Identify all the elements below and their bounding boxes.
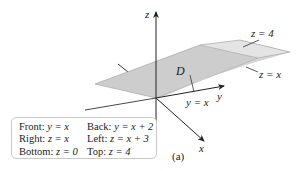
- legend-top: Top: z = 4: [87, 146, 130, 158]
- z-axis-label: z: [145, 9, 149, 20]
- boundary-legend: Front: y = x Back: y = x + 2 Right: z = …: [11, 117, 157, 159]
- legend-bottom: Bottom: z = 0: [19, 146, 87, 158]
- x-axis-label: x: [199, 143, 204, 154]
- legend-row: Front: y = x Back: y = x + 2: [19, 121, 156, 133]
- top-plane-annotation: z = 4: [251, 28, 274, 39]
- front-plane-annotation: y = x: [186, 97, 209, 108]
- region-label: D: [176, 65, 185, 77]
- y-axis-left: [85, 98, 156, 110]
- leader-right-plane: [246, 67, 258, 72]
- legend-left: Left: z = x + 3: [87, 133, 149, 145]
- legend-row: Bottom: z = 0 Top: z = 4: [19, 146, 156, 158]
- panel-label: (a): [172, 151, 184, 162]
- y-axis-label: y: [217, 91, 222, 102]
- legend-right: Right: z = x: [19, 133, 87, 145]
- legend-back: Back: y = x + 2: [87, 121, 153, 133]
- legend-front: Front: y = x: [19, 121, 87, 133]
- y-axis-negative: [118, 64, 128, 72]
- right-plane-annotation: z = x: [259, 69, 281, 80]
- legend-row: Right: z = x Left: z = x + 3: [19, 133, 156, 145]
